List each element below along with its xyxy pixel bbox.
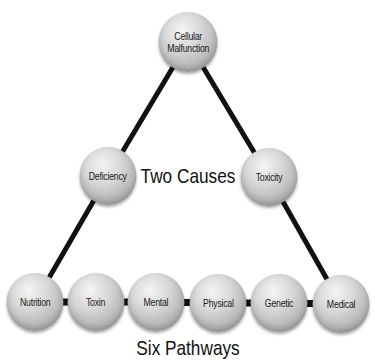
- node-physical: Physical: [190, 274, 247, 332]
- node-nutrition: Nutrition: [7, 273, 64, 331]
- node-label: Toxin: [86, 296, 105, 308]
- node-label: Genetic: [265, 297, 293, 309]
- node-deficiency: Deficiency: [80, 147, 137, 205]
- node-label: Medical: [327, 298, 355, 310]
- caption-two-causes: Two Causes: [139, 164, 237, 188]
- node-cellular-malfunction: Cellular Malfunction: [159, 12, 218, 72]
- node-toxicity: Toxicity: [241, 148, 298, 206]
- node-label: Nutrition: [20, 296, 50, 308]
- node-label: Toxicity: [256, 171, 283, 183]
- node-mental: Mental: [128, 273, 185, 331]
- node-toxin: Toxin: [68, 273, 125, 331]
- node-label: Physical: [203, 297, 234, 309]
- caption-six-pathways: Six Pathways: [131, 336, 246, 360]
- node-label: Mental: [144, 296, 169, 308]
- node-medical: Medical: [313, 275, 370, 333]
- node-label: Cellular Malfunction: [167, 30, 209, 54]
- node-label: Deficiency: [89, 170, 127, 182]
- node-genetic: Genetic: [251, 274, 308, 332]
